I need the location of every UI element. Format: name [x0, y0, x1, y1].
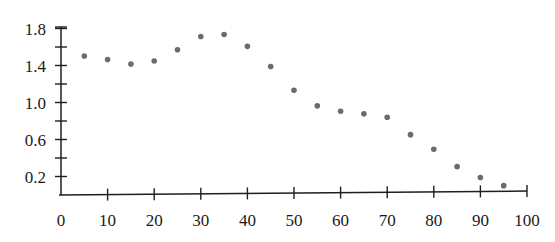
- data-point: [82, 53, 88, 59]
- data-point: [384, 114, 390, 120]
- x-axis-line: [59, 191, 527, 195]
- data-point: [128, 61, 134, 67]
- x-tick-label: 20: [146, 211, 163, 230]
- y-tick-label: 0.2: [25, 168, 46, 187]
- y-tick-label: 1.8: [25, 20, 46, 39]
- data-point: [105, 57, 111, 63]
- x-tick-label: 30: [192, 211, 209, 230]
- data-point: [221, 32, 227, 38]
- data-point: [501, 183, 507, 189]
- y-axis: 0.20.61.01.41.8: [25, 20, 67, 196]
- x-tick-label: 70: [379, 211, 396, 230]
- data-point: [291, 88, 297, 94]
- data-point: [245, 44, 251, 50]
- x-tick-label: 0: [57, 211, 66, 230]
- y-tick-label: 1.4: [25, 57, 47, 76]
- data-point: [338, 108, 344, 114]
- x-tick-label: 90: [472, 211, 489, 230]
- x-tick-label: 60: [332, 211, 349, 230]
- x-axis: 0102030405060708090100: [57, 185, 540, 230]
- scatter-chart: 0.20.61.01.41.8 0102030405060708090100: [0, 0, 555, 242]
- data-point: [198, 34, 204, 40]
- x-tick-label: 50: [286, 211, 303, 230]
- data-point: [268, 64, 274, 70]
- data-points: [82, 32, 507, 189]
- x-tick-label: 80: [425, 211, 442, 230]
- data-point: [361, 111, 367, 117]
- data-point: [478, 175, 484, 181]
- data-point: [151, 58, 157, 64]
- data-point: [408, 132, 414, 138]
- data-point: [454, 164, 460, 170]
- y-tick-label: 0.6: [25, 131, 46, 150]
- x-tick-label: 100: [514, 211, 540, 230]
- data-point: [175, 47, 181, 53]
- data-point: [431, 146, 437, 152]
- data-point: [315, 103, 321, 109]
- y-tick-label: 1.0: [25, 94, 46, 113]
- x-tick-label: 10: [99, 211, 116, 230]
- x-tick-label: 40: [239, 211, 256, 230]
